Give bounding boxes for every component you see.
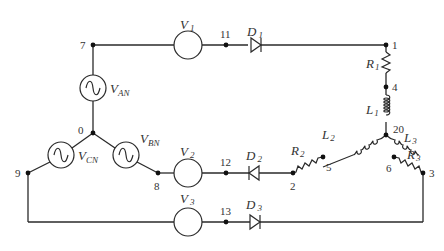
node-13	[224, 220, 229, 225]
node-label-12: 12	[220, 156, 231, 168]
node-label-5: 5	[326, 161, 332, 173]
node-label-3: 3	[429, 167, 435, 179]
node-4	[384, 85, 389, 90]
voltmeter-v3-icon	[174, 208, 202, 236]
label-d3: D3	[245, 197, 262, 213]
load-branch-2	[293, 135, 386, 173]
ac-source-vcn-icon	[48, 142, 74, 168]
node-0	[91, 131, 96, 136]
node-12	[224, 171, 229, 176]
voltmeter-v2-icon	[174, 159, 202, 187]
node-label-4: 4	[392, 81, 398, 93]
label-l3: L3	[403, 130, 417, 146]
node-5	[321, 155, 326, 160]
label-r2: R2	[290, 143, 305, 159]
diode-d1-icon	[251, 38, 261, 52]
node-label-0: 0	[78, 124, 84, 136]
node-3	[421, 171, 426, 176]
node-label-11: 11	[220, 28, 231, 40]
label-v2: V2	[180, 144, 195, 160]
label-r3: R3	[406, 147, 421, 163]
resistor-r1-icon	[382, 52, 390, 73]
node-9	[26, 171, 31, 176]
node-1	[384, 43, 389, 48]
label-v1: V1	[180, 17, 194, 33]
top-branch	[93, 31, 386, 59]
node-label-1: 1	[392, 39, 398, 51]
label-vcn: VCN	[78, 148, 99, 165]
label-van: VAN	[110, 81, 130, 98]
resistor-r2-icon	[293, 157, 323, 173]
label-vbn: VBN	[140, 131, 160, 148]
node-20	[384, 133, 389, 138]
circuit-schematic: V1 D1 VAN VBN VCN V2 D2 V3 D3 R1 L1 L2 L…	[0, 0, 444, 251]
source-wye	[28, 45, 158, 173]
right-vertical-leg	[382, 45, 390, 135]
node-7	[91, 43, 96, 48]
label-l1: L1	[365, 102, 379, 118]
ac-source-van-icon	[80, 75, 106, 101]
node-label-20: 20	[393, 123, 405, 135]
label-r1: R1	[365, 56, 379, 72]
diode-d3-icon	[250, 215, 260, 229]
node-2	[291, 171, 296, 176]
label-d2: D2	[245, 148, 262, 164]
ac-source-vbn-icon	[113, 142, 139, 168]
label-l2: L2	[321, 127, 335, 143]
component-labels: V1 D1 VAN VBN VCN V2 D2 V3 D3 R1 L1 L2 L…	[78, 17, 421, 213]
voltmeter-v1-icon	[174, 31, 202, 59]
node-label-8: 8	[154, 180, 160, 192]
node-label-6: 6	[386, 162, 392, 174]
node-label-9: 9	[15, 167, 21, 179]
node-label-2: 2	[290, 180, 296, 192]
node-11	[224, 43, 229, 48]
node-label-7: 7	[80, 39, 86, 51]
label-v3: V3	[180, 191, 195, 207]
node-label-13: 13	[220, 205, 232, 217]
node-8	[156, 171, 161, 176]
diode-d2-icon	[249, 166, 259, 180]
node-6	[392, 155, 397, 160]
label-d1: D1	[246, 24, 263, 40]
inductor-l1-icon	[384, 95, 390, 115]
